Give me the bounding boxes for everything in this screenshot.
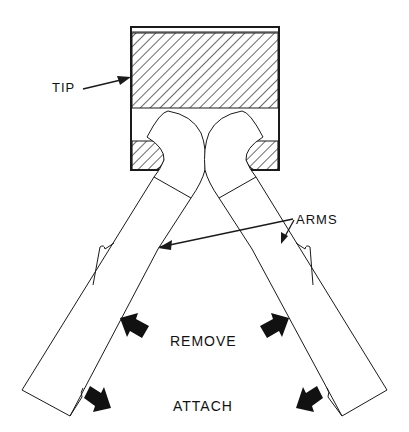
attach-arrow-left (84, 386, 111, 412)
remove-label: REMOVE (170, 333, 237, 349)
tip-arms-diagram (0, 0, 409, 432)
attach-arrow-right (296, 386, 323, 412)
tip-pointer-arrow (83, 76, 131, 89)
right-arm (205, 111, 388, 416)
left-arm (22, 111, 206, 416)
attach-label: ATTACH (173, 398, 233, 414)
tip-label: TIP (52, 80, 75, 95)
remove-arrow-right (260, 313, 289, 338)
arms-label: ARMS (296, 212, 338, 227)
remove-arrow-left (120, 313, 149, 338)
